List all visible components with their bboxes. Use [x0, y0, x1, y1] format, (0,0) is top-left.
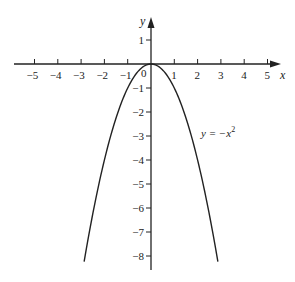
x-axis-label: x: [279, 68, 286, 82]
origin-label: 0: [141, 67, 147, 79]
x-tick-label: 5: [265, 69, 271, 81]
x-axis-arrow-icon: [270, 61, 281, 68]
x-tick-label: 1: [171, 69, 177, 81]
x-tick-label: −4: [50, 69, 62, 81]
x-tick-label: −1: [120, 69, 132, 81]
curve-equation-superscript: 2: [231, 125, 235, 134]
y-tick-label: −3: [132, 130, 144, 142]
parabola-chart: x y 0 −5−4−3−2−112345 1−1−2−3−4−5−6−7−8 …: [0, 0, 295, 282]
x-tick-label: 3: [218, 69, 224, 81]
x-tick-label: −2: [96, 69, 108, 81]
x-tick-label: 2: [195, 69, 201, 81]
y-axis-arrow-icon: [148, 17, 155, 28]
x-tick-label: −3: [73, 69, 85, 81]
y-tick-label: −7: [132, 226, 144, 238]
curve-equation-main: y = −x: [200, 127, 231, 139]
x-tick-label: −5: [27, 69, 39, 81]
y-tick-label: −2: [132, 106, 144, 118]
x-ticks: −5−4−3−2−112345: [27, 59, 271, 81]
y-tick-label: −4: [132, 154, 144, 166]
curve-equation-label: y = −x2: [200, 125, 235, 139]
y-tick-label: −6: [132, 202, 144, 214]
y-tick-label: −8: [132, 250, 144, 262]
y-tick-label: −1: [132, 82, 144, 94]
y-tick-label: −5: [132, 178, 144, 190]
y-axis-label: y: [139, 14, 146, 28]
x-tick-label: 4: [241, 69, 247, 81]
y-tick-label: 1: [139, 34, 145, 46]
